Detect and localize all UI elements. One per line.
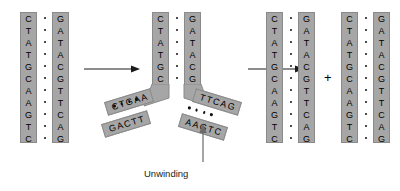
daughter-a-right-base-10: G <box>299 133 314 145</box>
right-strand-base-2: T <box>53 37 68 49</box>
daughter-a-left-strand: CTATGCAAGTC <box>266 12 283 143</box>
hydrogen-bond-column <box>41 12 49 144</box>
daughter-a-right-base-3: A <box>299 49 314 61</box>
fork-hydrogen-bond-column <box>173 12 181 84</box>
arrow-unwinding-pointer <box>197 124 209 166</box>
fork-left-stem: CTATGC <box>152 12 169 95</box>
fork-left-stem-base-4: G <box>153 61 168 73</box>
left-strand-base-4: G <box>21 61 36 73</box>
daughter-b-right-base-1: A <box>374 25 389 37</box>
fork-right-stem-base-3: A <box>185 49 200 61</box>
daughter-a-bond-5 <box>287 72 295 84</box>
daughter-b-left-base-1: T <box>342 25 357 37</box>
daughter-b-left-base-8: G <box>342 109 357 121</box>
daughter-b-right-base-0: G <box>374 13 389 25</box>
daughter-b-bond-3 <box>362 48 370 60</box>
diagram-canvas: CTATGCAAGTC GATACGTTCAG CTATGC GATACG CT… <box>0 0 400 191</box>
fork-bond-3 <box>173 48 181 60</box>
daughter-a-left-base-5: C <box>267 73 282 85</box>
fork-right-stem-base-1: A <box>185 25 200 37</box>
daughter-b-left-base-7: A <box>342 97 357 109</box>
daughter-a-right-base-2: T <box>299 37 314 49</box>
daughter-b-left-base-0: C <box>342 13 357 25</box>
fork-left-stem-base-1: T <box>153 25 168 37</box>
daughter-a-bond-8 <box>287 108 295 120</box>
duplex-bond-0 <box>41 12 49 24</box>
daughter-a-bond-10 <box>287 132 295 144</box>
daughter-a-left-base-6: A <box>267 85 282 97</box>
daughter-a-bond-0 <box>287 12 295 24</box>
daughter-a-right-base-8: C <box>299 109 314 121</box>
duplex-bond-4 <box>41 60 49 72</box>
daughter-b-right-base-5: G <box>374 73 389 85</box>
daughter-b-bond-4 <box>362 60 370 72</box>
right-strand: GATACGTTCAG <box>52 12 69 143</box>
left-strand-base-9: T <box>21 121 36 133</box>
daughter-a-left-base-2: A <box>267 37 282 49</box>
left-strand-base-7: A <box>21 97 36 109</box>
left-strand-base-3: T <box>21 49 36 61</box>
daughter-a-right-base-0: G <box>299 13 314 25</box>
daughter-a-right-base-7: T <box>299 97 314 109</box>
daughter-a-right-strand: GATACGTTCAG <box>298 12 315 143</box>
fork-right-stem-base-0: G <box>185 13 200 25</box>
daughter-a-right-base-5: G <box>299 73 314 85</box>
daughter-a-left-base-3: T <box>267 49 282 61</box>
daughter-a-left-base-9: T <box>267 121 282 133</box>
duplex-bond-3 <box>41 48 49 60</box>
daughter-b-right-base-2: T <box>374 37 389 49</box>
daughter-b-bond-7 <box>362 96 370 108</box>
daughter-b-right-strand: GATACGTTCAG <box>373 12 390 143</box>
daughter-a-left-base-8: G <box>267 109 282 121</box>
daughter-b-right-base-3: A <box>374 49 389 61</box>
daughter-b-right-base-7: T <box>374 97 389 109</box>
daughter-a-bond-6 <box>287 84 295 96</box>
right-strand-base-7: T <box>53 97 68 109</box>
right-strand-base-0: G <box>53 13 68 25</box>
daughter-b-right-base-4: C <box>374 61 389 73</box>
duplex-bond-8 <box>41 108 49 120</box>
right-strand-base-3: A <box>53 49 68 61</box>
fork-left-stem-base-3: T <box>153 49 168 61</box>
daughter-a-left-base-4: G <box>267 61 282 73</box>
left-strand-base-5: C <box>21 73 36 85</box>
arrow-step-1 <box>84 62 140 80</box>
daughter-b-left-base-9: T <box>342 121 357 133</box>
right-strand-base-9: A <box>53 121 68 133</box>
duplex-bond-5 <box>41 72 49 84</box>
unwinding-label: Unwinding <box>144 168 188 179</box>
daughter-a-bond-2 <box>287 36 295 48</box>
left-strand-base-2: A <box>21 37 36 49</box>
fork-bond-0 <box>173 12 181 24</box>
left-strand-base-8: G <box>21 109 36 121</box>
daughter-a-bond-column <box>287 12 295 144</box>
daughter-b-bond-6 <box>362 84 370 96</box>
fork-right-stem: GATACG <box>184 12 201 95</box>
lower-left-branch-sequence: GACTT <box>106 114 146 134</box>
daughter-b-left-base-2: A <box>342 37 357 49</box>
duplex-bond-7 <box>41 96 49 108</box>
right-strand-base-8: C <box>53 109 68 121</box>
daughter-b-bond-1 <box>362 24 370 36</box>
daughter-a-bond-9 <box>287 120 295 132</box>
daughter-a-right-base-6: T <box>299 85 314 97</box>
daughter-a-left-base-10: C <box>267 133 282 145</box>
duplex-bond-2 <box>41 36 49 48</box>
daughter-b-bond-column <box>362 12 370 144</box>
duplex-bond-10 <box>41 132 49 144</box>
fork-bond-5 <box>173 72 181 84</box>
daughter-b-left-base-6: A <box>342 85 357 97</box>
daughter-b-right-base-10: G <box>374 133 389 145</box>
daughter-b-right-base-6: T <box>374 85 389 97</box>
left-strand-base-6: A <box>21 85 36 97</box>
daughter-b-bond-5 <box>362 72 370 84</box>
daughter-b-right-base-9: A <box>374 121 389 133</box>
right-strand-base-4: C <box>53 61 68 73</box>
daughter-b-left-strand: CTATGCAAGTC <box>341 12 358 143</box>
fork-left-stem-base-2: A <box>153 37 168 49</box>
daughter-a-bond-1 <box>287 24 295 36</box>
daughter-b-bond-9 <box>362 120 370 132</box>
fork-right-stem-base-4: C <box>185 61 200 73</box>
daughter-b-left-base-5: C <box>342 73 357 85</box>
right-strand-base-5: G <box>53 73 68 85</box>
